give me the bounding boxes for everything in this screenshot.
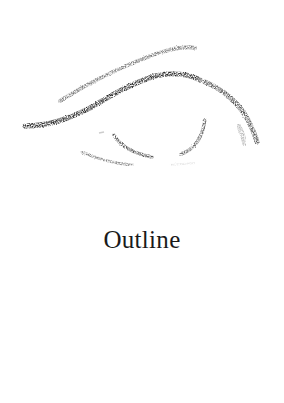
- faint-mark: [170, 163, 195, 165]
- upper-lid-stroke: [25, 74, 200, 126]
- faint-mark: [99, 132, 104, 133]
- outer-lid-stroke: [205, 82, 257, 142]
- outer-lid-shade: [238, 125, 245, 145]
- lower-lid-inner-stroke: [114, 135, 152, 157]
- lower-lash-stroke: [82, 152, 132, 165]
- caption-label: Outline: [0, 226, 284, 254]
- lower-lid-right-stroke: [181, 120, 205, 154]
- eye-illustration: [0, 0, 284, 200]
